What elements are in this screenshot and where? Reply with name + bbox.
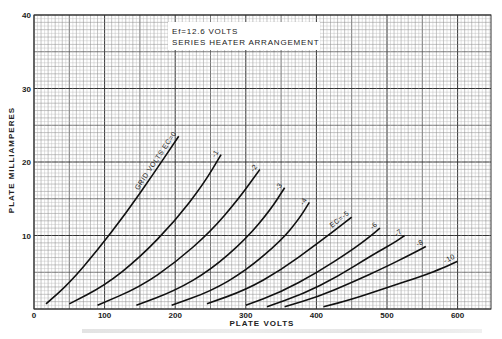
x-tick-label: 400 <box>310 311 324 320</box>
x-tick-label: 500 <box>380 311 394 320</box>
curve-label-2: -2 <box>249 163 259 173</box>
y-axis-ticks: 10203040 <box>22 11 31 241</box>
plate-characteristics-chart: GRID VOLTS EC=0-1-2-3-4EC=-5-6-7-8-10 01… <box>0 0 502 339</box>
x-tick-label: 0 <box>32 311 37 320</box>
y-axis-title: PLATE MILLIAMPERES <box>7 107 16 213</box>
curve-label-3: -3 <box>274 181 284 191</box>
y-tick-label: 20 <box>22 158 31 167</box>
curve-label-6: -6 <box>369 221 379 231</box>
graph-paper-grid <box>34 15 491 309</box>
curve-label-4: -4 <box>298 196 308 206</box>
curve-label-8: -8 <box>415 238 425 248</box>
y-tick-label: 10 <box>22 232 31 241</box>
x-tick-label: 100 <box>98 311 112 320</box>
figure-caption-illegible <box>82 329 482 333</box>
x-axis-title: PLATE VOLTS <box>230 319 295 328</box>
y-tick-label: 40 <box>22 11 31 20</box>
heater-arrangement-note: SERIES HEATER ARRANGEMENT <box>172 38 319 47</box>
curve-labels: GRID VOLTS EC=0-1-2-3-4EC=-5-6-7-8-10 <box>133 130 456 264</box>
curve-grid-7 <box>267 236 405 307</box>
heater-voltage-note: Ef=12.6 VOLTS <box>172 27 238 36</box>
x-tick-label: 600 <box>451 311 465 320</box>
y-tick-label: 30 <box>22 85 31 94</box>
x-tick-label: 200 <box>169 311 183 320</box>
curve-label-1: -1 <box>210 149 220 159</box>
